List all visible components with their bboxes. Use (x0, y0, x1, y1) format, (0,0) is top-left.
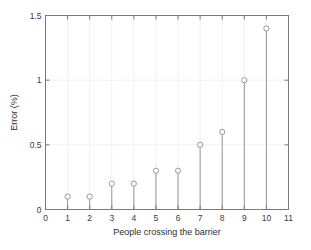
stem-plot: 01234567891011 00.511.5 People crossing … (0, 0, 311, 250)
x-tick-label: 5 (154, 213, 159, 223)
data-point-marker (264, 26, 269, 31)
x-tick-label: 9 (242, 213, 247, 223)
y-tick-label: 0 (37, 205, 42, 215)
x-tick-label: 7 (198, 213, 203, 223)
x-tick-label: 1 (65, 213, 70, 223)
data-point-marker (109, 181, 114, 186)
data-point-marker (65, 194, 70, 199)
x-tick-label: 4 (131, 213, 136, 223)
x-tick-label: 10 (262, 213, 272, 223)
data-point-marker (153, 168, 158, 173)
data-point-marker (242, 78, 247, 83)
x-tick-label: 3 (109, 213, 114, 223)
y-axis-title: Error (%) (9, 94, 19, 131)
data-point-marker (131, 181, 136, 186)
x-tick-label: 6 (176, 213, 181, 223)
data-point-marker (87, 194, 92, 199)
y-tick-label: 1 (37, 75, 42, 85)
y-tick-label: 0.5 (30, 140, 42, 150)
data-point-marker (175, 168, 180, 173)
data-point-marker (220, 129, 225, 134)
x-tick-label: 0 (43, 213, 48, 223)
x-tick-label: 11 (284, 213, 293, 223)
x-axis-title: People crossing the barrier (113, 227, 221, 237)
x-tick-label: 8 (220, 213, 225, 223)
chart-figure: 01234567891011 00.511.5 People crossing … (0, 0, 311, 250)
x-tick-label: 2 (87, 213, 92, 223)
y-tick-label: 1.5 (30, 11, 42, 21)
data-point-marker (198, 142, 203, 147)
